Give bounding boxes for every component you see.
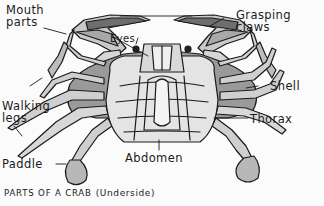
body [106, 44, 218, 142]
label-walking-legs-line2: legs [2, 112, 50, 124]
label-mouth-parts: Mouth parts [6, 4, 44, 28]
label-paddle: Paddle [2, 158, 43, 170]
right-paddle-shape [236, 156, 259, 182]
label-mouth-parts-line2: parts [6, 16, 44, 28]
diagram-caption: PARTS OF A CRAB(Underside) [4, 188, 155, 198]
label-thorax-text: Thorax [250, 112, 292, 126]
label-abdomen: Abdomen [125, 152, 183, 164]
label-paddle-text: Paddle [2, 157, 43, 171]
label-grasping-claws: Grasping claws [236, 9, 291, 33]
abdomen-shape [154, 79, 170, 126]
label-thorax: Thorax [250, 113, 292, 125]
label-shell-text: Shell [270, 79, 300, 93]
label-grasping-claws-line2: claws [236, 21, 291, 33]
label-eyes: Eyes [110, 33, 135, 45]
label-abdomen-text: Abdomen [125, 151, 183, 165]
crab-diagram: Mouth parts Eyes Grasping claws Shell Wa… [0, 0, 324, 206]
label-shell: Shell [270, 80, 300, 92]
left-paddle-shape [65, 160, 87, 185]
label-walking-legs: Walking legs [2, 100, 50, 124]
caption-title: PARTS OF A CRAB [4, 188, 92, 198]
caption-subtitle: (Underside) [96, 188, 155, 198]
label-eyes-text: Eyes [110, 33, 135, 44]
